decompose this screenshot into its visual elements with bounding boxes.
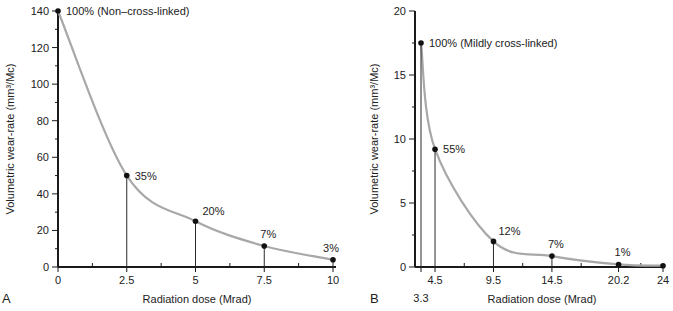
data-point: [418, 40, 424, 46]
y-tick-label: 5: [400, 197, 406, 209]
y-axis-title: Volumetric wear-rate (mm³/Mc): [4, 64, 16, 215]
y-tick-label: 15: [394, 69, 406, 81]
panel-label: A: [2, 291, 11, 306]
x-tick-label: 7.5: [257, 274, 272, 286]
data-label: 7%: [548, 238, 564, 250]
y-tick-label: 40: [37, 188, 49, 200]
data-point: [432, 146, 438, 152]
y-tick-label: 100: [31, 78, 49, 90]
y-tick-label: 60: [37, 151, 49, 163]
x-tick-label: 3.3: [413, 292, 428, 304]
data-point: [549, 253, 555, 259]
x-tick-label: 9.5: [486, 274, 501, 286]
data-label: 100% (Non–cross-linked): [66, 5, 190, 17]
data-point: [616, 262, 622, 268]
x-axis-title: Radiation dose (Mrad): [488, 293, 597, 305]
y-tick-label: 80: [37, 115, 49, 127]
y-tick-label: 10: [394, 133, 406, 145]
y-tick-label: 0: [43, 261, 49, 273]
x-tick-label: 14.5: [541, 274, 562, 286]
x-tick-label: 10: [327, 274, 339, 286]
panel-label: B: [370, 291, 379, 306]
y-tick-label: 20: [394, 5, 406, 17]
data-label: 7%: [260, 228, 276, 240]
data-point: [330, 257, 336, 263]
data-point: [55, 8, 61, 14]
data-label: 12%: [498, 225, 520, 237]
y-axis-title: Volumetric wear-rate (mm³/Mc): [368, 64, 380, 215]
y-tick-label: 140: [31, 5, 49, 17]
chart-panel-a: 02040608010012014002.557.510100% (Non–cr…: [2, 5, 339, 306]
x-tick-label: 2.5: [119, 274, 134, 286]
y-tick-label: 0: [400, 261, 406, 273]
x-tick-label: 5: [192, 274, 198, 286]
y-tick-label: 20: [37, 224, 49, 236]
data-point: [193, 218, 199, 224]
data-label: 20%: [202, 205, 224, 217]
x-axis-title: Radiation dose (Mrad): [143, 293, 252, 305]
x-tick-label: 20.2: [608, 274, 629, 286]
y-tick-label: 120: [31, 42, 49, 54]
x-tick-label: 24: [657, 274, 669, 286]
x-tick-label: 4.5: [427, 274, 442, 286]
data-point: [124, 173, 130, 179]
chart-panel-b: 051015203.34.59.514.520.224100% (Mildly …: [368, 5, 669, 306]
data-label: 3%: [323, 242, 339, 254]
data-point: [660, 263, 666, 269]
data-label: 35%: [135, 170, 157, 182]
data-label: 100% (Mildly cross-linked): [429, 37, 557, 49]
x-tick-label: 0: [55, 274, 61, 286]
data-point: [491, 239, 497, 245]
data-point: [261, 243, 267, 249]
data-label: 55%: [443, 143, 465, 155]
data-label: 1%: [615, 246, 631, 258]
chart-figure: 02040608010012014002.557.510100% (Non–cr…: [0, 0, 673, 311]
